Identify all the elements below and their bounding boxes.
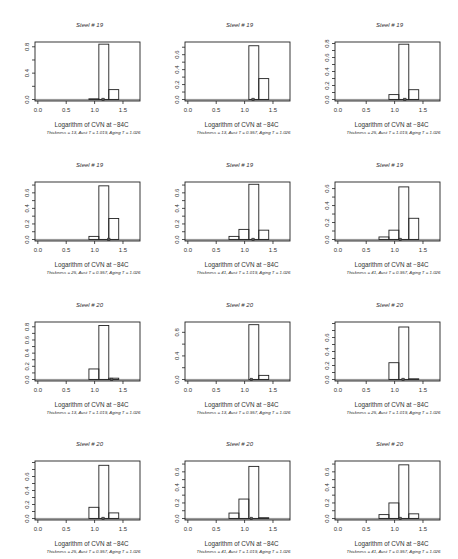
panel-subtitle: Thickness = 25, Aust T = 1.019, Aging T … <box>346 130 441 135</box>
x-tick-label: 0.0 <box>334 107 343 113</box>
x-tick-label: 1.5 <box>119 526 128 532</box>
y-tick-label: 0.4 <box>174 204 180 213</box>
x-tick-label: 0.0 <box>184 387 193 393</box>
panel-title: Steel # 19 <box>376 22 404 28</box>
panel-subtitle: Thickness = 25, Aust T = 0.957, Aging T … <box>46 270 141 275</box>
y-tick-label: 0.8 <box>24 42 30 51</box>
histogram-svg: Steel # 200.00.20.40.60.00.51.01.5Logari… <box>300 280 452 419</box>
histogram-bar <box>409 514 419 519</box>
histogram-bar <box>389 503 399 519</box>
x-tick-label: 1.0 <box>240 247 249 253</box>
histogram-bar <box>399 44 409 99</box>
histogram-bar <box>399 465 409 519</box>
histogram-bar <box>249 46 259 100</box>
histogram-bar <box>409 218 419 239</box>
panel-title: Steel # 20 <box>376 302 404 308</box>
x-axis-label: Logarithm of CVN at −84C <box>354 261 428 269</box>
x-axis-label: Logarithm of CVN at −84C <box>54 540 128 548</box>
panel-title: Steel # 19 <box>76 22 104 28</box>
y-tick-label: 0.2 <box>324 361 330 370</box>
histogram-svg: Steel # 190.00.20.40.60.00.51.01.5Logari… <box>150 140 302 279</box>
histogram-svg: Steel # 190.00.20.40.60.00.51.01.5Logari… <box>150 0 302 139</box>
x-tick-label: 0.5 <box>362 107 371 113</box>
histogram-panel: Steel # 200.00.20.40.60.80.00.51.01.5Log… <box>0 280 152 419</box>
y-tick-label: 0.6 <box>174 188 180 197</box>
y-tick-label: 0.2 <box>324 218 330 227</box>
observed-marker <box>250 517 253 520</box>
histogram-bar <box>249 184 259 239</box>
y-tick-label: 0.8 <box>174 328 180 337</box>
observed-marker <box>399 517 402 520</box>
y-tick-label: 0.2 <box>324 498 330 507</box>
x-tick-label: 1.5 <box>269 387 278 393</box>
x-tick-label: 0.5 <box>62 247 71 253</box>
y-tick-label: 0.6 <box>24 335 30 344</box>
histogram-bar <box>239 499 249 518</box>
histogram-svg: Steel # 200.00.20.40.60.00.51.01.5Logari… <box>300 419 452 558</box>
histogram-bar <box>259 230 269 239</box>
histogram-bar <box>109 513 119 519</box>
plot-frame <box>185 461 290 520</box>
panel-subtitle: Thickness = 41, Aust T = 0.957, Aging T … <box>346 549 441 554</box>
histogram-bar <box>89 369 99 380</box>
histogram-bar <box>229 513 239 518</box>
histogram-panel: Steel # 200.00.40.80.00.51.01.5Logarithm… <box>150 280 302 419</box>
x-tick-label: 0.0 <box>334 387 343 393</box>
histogram-bar <box>389 363 399 380</box>
histogram-bar <box>89 99 99 100</box>
x-tick-label: 0.5 <box>362 526 371 532</box>
y-tick-label: 0.2 <box>174 219 180 228</box>
x-axis-label: Logarithm of CVN at −84C <box>354 401 428 409</box>
histogram-panel: Steel # 200.00.20.40.60.00.51.01.5Logari… <box>0 419 152 558</box>
x-tick-label: 0.5 <box>62 107 71 113</box>
y-tick-label: 0.2 <box>24 500 30 509</box>
observed-marker <box>250 378 253 381</box>
panel-title: Steel # 20 <box>76 441 104 447</box>
histogram-panel: Steel # 190.00.20.40.60.80.00.51.01.5Log… <box>300 0 452 139</box>
baseline-band <box>335 379 440 381</box>
histogram-bar <box>409 379 419 380</box>
histogram-svg: Steel # 190.00.20.40.60.00.51.01.5Logari… <box>0 140 152 279</box>
histogram-bar <box>99 44 109 99</box>
y-tick-label: 0.6 <box>324 184 330 193</box>
plot-frame <box>335 182 440 241</box>
x-tick-label: 0.5 <box>212 387 221 393</box>
x-tick-label: 0.0 <box>34 526 43 532</box>
plot-frame <box>185 182 290 241</box>
x-axis-label: Logarithm of CVN at −84C <box>204 261 278 269</box>
x-tick-label: 1.5 <box>269 107 278 113</box>
x-tick-label: 0.0 <box>184 247 193 253</box>
y-tick-label: 0.2 <box>24 219 30 228</box>
x-tick-label: 1.5 <box>119 387 128 393</box>
x-tick-label: 1.5 <box>269 526 278 532</box>
panel-subtitle: Thickness = 41, Aust T = 1.019, Aging T … <box>196 549 291 554</box>
y-tick-label: 0.6 <box>324 467 330 476</box>
histogram-bar <box>379 237 389 240</box>
x-tick-label: 1.0 <box>390 247 399 253</box>
y-tick-label: 0.8 <box>324 39 330 48</box>
histogram-svg: Steel # 190.00.20.40.60.80.00.51.01.5Log… <box>300 0 452 139</box>
histogram-bar <box>109 219 119 240</box>
y-tick-label: 0.0 <box>324 375 330 384</box>
plot-frame <box>335 42 440 101</box>
histogram-bar <box>89 507 99 518</box>
x-tick-label: 0.5 <box>212 247 221 253</box>
histogram-bar <box>259 79 269 100</box>
plot-frame <box>185 42 290 101</box>
x-tick-label: 1.5 <box>119 247 128 253</box>
x-tick-label: 0.0 <box>34 107 43 113</box>
y-tick-label: 0.4 <box>174 351 180 360</box>
histogram-panel: Steel # 190.00.20.40.60.00.51.01.5Logari… <box>300 140 452 279</box>
x-tick-label: 1.0 <box>240 107 249 113</box>
x-tick-label: 0.5 <box>62 387 71 393</box>
y-tick-label: 0.0 <box>24 95 30 104</box>
panel-title: Steel # 20 <box>226 441 254 447</box>
panel-title: Steel # 19 <box>226 162 254 168</box>
histogram-bar <box>109 90 119 100</box>
baseline-band <box>35 379 140 381</box>
histogram-svg: Steel # 200.00.20.40.60.00.51.01.5Logari… <box>150 419 302 558</box>
x-tick-label: 0.0 <box>34 247 43 253</box>
observed-marker <box>252 238 255 241</box>
histogram-bar <box>259 518 269 519</box>
y-tick-label: 0.0 <box>174 514 180 523</box>
